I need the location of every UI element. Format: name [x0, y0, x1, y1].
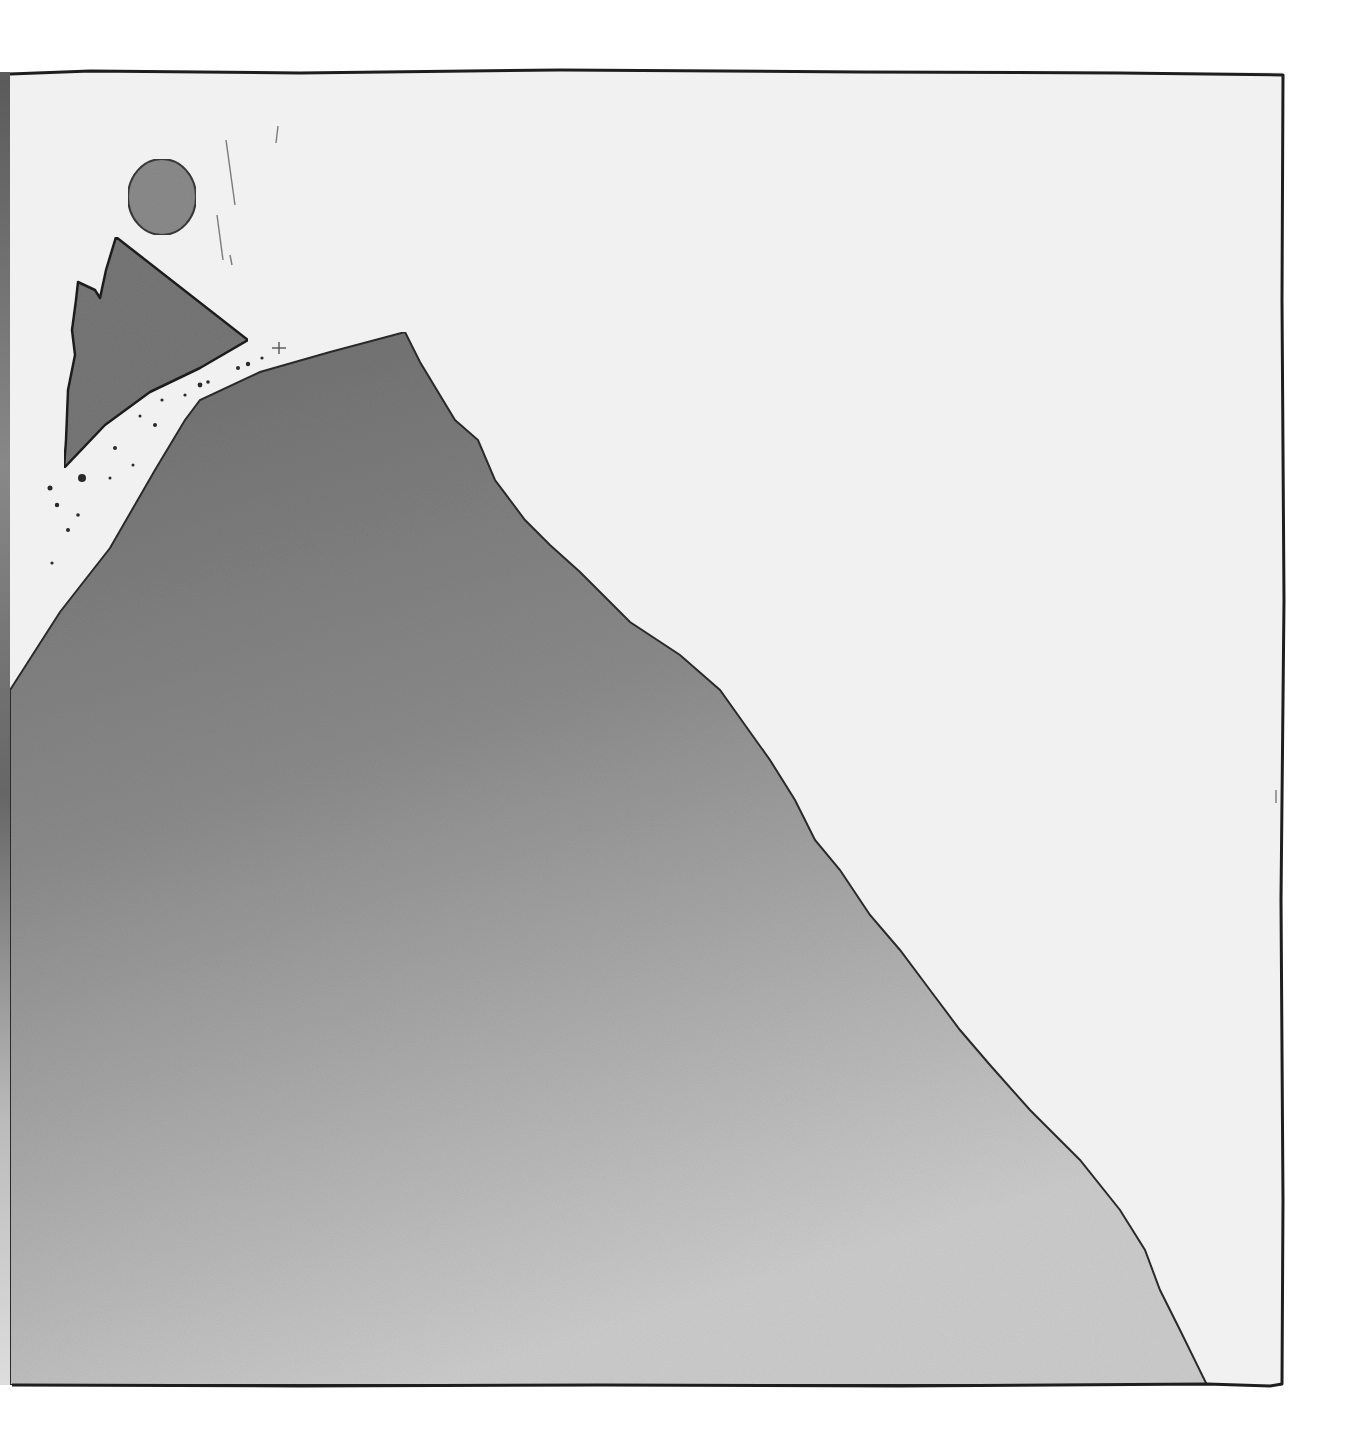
round-stone — [128, 159, 196, 235]
mountain-illustration — [0, 0, 1351, 1453]
